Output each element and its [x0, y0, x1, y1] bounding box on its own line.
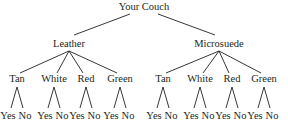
- edge-tan-to-yes: [11, 87, 17, 108]
- edge-tan-to-no: [17, 87, 23, 108]
- leaf-microsuede-tan-yes: Yes: [146, 110, 161, 121]
- edge-green-to-no: [264, 87, 270, 108]
- node-microsuede: Microsuede: [194, 38, 244, 49]
- edge-white-to-no: [54, 87, 60, 108]
- edge-root-to-microsuede: [158, 14, 215, 35]
- leaf-microsuede-red-no: No: [234, 110, 247, 121]
- leaf-leather-white-no: No: [56, 110, 69, 121]
- edge-green-to-no: [120, 87, 126, 108]
- leaf-leather-red-no: No: [88, 110, 101, 121]
- edge-red-to-no: [232, 87, 238, 108]
- node-leather-white: White: [41, 73, 67, 84]
- edge-leather-to-tan: [20, 51, 69, 73]
- edge-red-to-yes: [80, 87, 86, 108]
- leaf-microsuede-white-yes: Yes: [183, 110, 198, 121]
- node-microsuede-green: Green: [251, 73, 277, 84]
- leaf-microsuede-white-no: No: [202, 110, 215, 121]
- edge-green-to-yes: [114, 87, 120, 108]
- edge-green-to-yes: [258, 87, 264, 108]
- edge-microsuede-to-green: [219, 51, 261, 73]
- node-microsuede-white: White: [187, 73, 213, 84]
- root-node: Your Couch: [119, 1, 170, 12]
- node-microsuede-red: Red: [224, 73, 242, 84]
- leaf-leather-red-yes: Yes: [69, 110, 84, 121]
- leaf-microsuede-green-yes: Yes: [247, 110, 262, 121]
- leaf-leather-white-yes: Yes: [37, 110, 52, 121]
- node-leather-red: Red: [78, 73, 96, 84]
- edge-red-to-yes: [226, 87, 232, 108]
- node-microsuede-tan: Tan: [155, 73, 171, 84]
- edge-white-to-yes: [48, 87, 54, 108]
- leaf-leather-green-no: No: [122, 110, 135, 121]
- tree-edges: [11, 14, 270, 108]
- edge-microsuede-to-red: [219, 51, 229, 73]
- leaf-leather-green-yes: Yes: [103, 110, 118, 121]
- tree-diagram: Your CouchLeatherTanYesNoWhiteYesNoRedYe…: [0, 0, 288, 127]
- leaf-leather-tan-no: No: [19, 110, 32, 121]
- edge-white-to-no: [200, 87, 206, 108]
- node-leather-tan: Tan: [9, 73, 25, 84]
- leaf-leather-tan-yes: Yes: [0, 110, 15, 121]
- edge-red-to-no: [86, 87, 92, 108]
- leaf-microsuede-red-yes: Yes: [215, 110, 230, 121]
- node-leather: Leather: [53, 38, 86, 49]
- edge-leather-to-white: [57, 51, 69, 73]
- leaf-microsuede-tan-no: No: [165, 110, 178, 121]
- edge-root-to-leather: [74, 14, 130, 35]
- node-leather-green: Green: [107, 73, 133, 84]
- edge-tan-to-no: [163, 87, 169, 108]
- edge-white-to-yes: [194, 87, 200, 108]
- edge-tan-to-yes: [157, 87, 163, 108]
- leaf-microsuede-green-no: No: [266, 110, 279, 121]
